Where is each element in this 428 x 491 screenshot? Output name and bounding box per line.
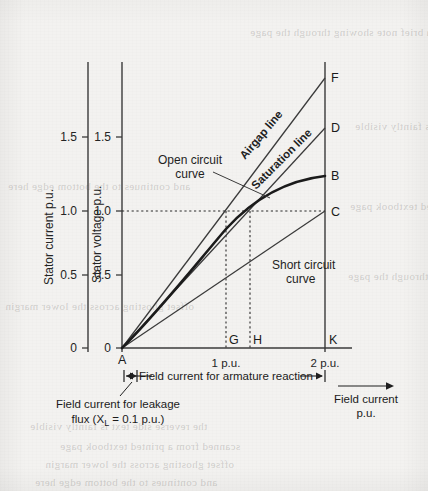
point-label-G: G bbox=[229, 333, 239, 347]
point-label-B: B bbox=[331, 169, 339, 183]
x-axis-title-line1: Field current bbox=[334, 393, 399, 405]
voltage-axis-tick-0: 0 bbox=[104, 341, 111, 355]
leakage-flux-leader-line bbox=[120, 382, 132, 396]
scanned-page: a brief note showing through the page th… bbox=[0, 0, 428, 491]
point-label-C: C bbox=[331, 205, 340, 219]
open-circuit-curve-label-line1: Open circuit bbox=[158, 153, 223, 167]
point-label-F: F bbox=[331, 71, 339, 85]
voltage-axis-tick-1.5: 1.5 bbox=[94, 130, 111, 144]
leakage-flux-prefix: flux (X bbox=[72, 413, 105, 425]
voltage-ordinate-axis bbox=[116, 62, 122, 352]
left-axis-tick-0.5: 0.5 bbox=[60, 268, 77, 282]
point-label-A: A bbox=[118, 353, 127, 367]
open-circuit-short-circuit-characteristic-figure: 1.5 1.0 0.5 0 Stator current p.u. 1.5 1.… bbox=[0, 0, 428, 491]
voltage-axis-title: Stator voltage p.u. bbox=[90, 186, 104, 283]
left-axis-tick-0: 0 bbox=[70, 341, 77, 355]
x-axis-title-line2: p.u. bbox=[356, 407, 375, 419]
left-axis-title: Stator current p.u. bbox=[42, 189, 56, 285]
leakage-flux-annotation-line1: Field current for leakage bbox=[56, 398, 180, 410]
open-circuit-curve-label-line2: curve bbox=[175, 167, 205, 181]
point-label-H: H bbox=[253, 333, 262, 347]
short-circuit-curve-label-line2: curve bbox=[286, 272, 316, 286]
x-axis-direction-arrow bbox=[338, 382, 394, 390]
point-label-K: K bbox=[329, 333, 338, 347]
x-axis-tick-1pu: 1 p.u. bbox=[212, 357, 241, 369]
left-axis-tick-1.0: 1.0 bbox=[60, 204, 77, 218]
leakage-flux-suffix: = 0.1 p.u.) bbox=[109, 413, 164, 425]
left-axis-tick-1.5: 1.5 bbox=[60, 130, 77, 144]
airgap-line bbox=[122, 78, 325, 348]
leakage-flux-annotation-line2: flux (XL = 0.1 p.u.) bbox=[72, 413, 165, 428]
left-ordinate-axis bbox=[82, 62, 88, 352]
x-axis-tick-2pu: 2 p.u. bbox=[311, 357, 340, 369]
point-label-D: D bbox=[331, 121, 340, 135]
short-circuit-curve-label-line1: Short circuit bbox=[272, 258, 336, 272]
armature-reaction-annotation: Field current for armature reaction bbox=[139, 370, 313, 382]
